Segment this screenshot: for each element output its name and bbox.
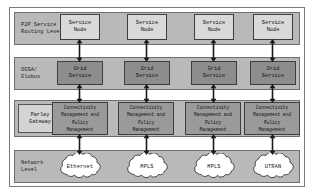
double-arrow-icon	[143, 84, 150, 103]
network-cloud-mpls-2[interactable]: MPLS	[188, 153, 240, 180]
connector-arrow-p2p-ogsa-4	[269, 39, 276, 62]
connector-arrow-ogsa-parlay-1	[76, 84, 83, 103]
connector-arrow-p2p-ogsa-3	[210, 39, 217, 62]
service-node-3[interactable]: Service Node	[194, 14, 234, 40]
grid-service-2[interactable]: Grid Service	[124, 61, 170, 85]
cloud-label-mpls-1: MPLS	[121, 153, 173, 180]
layer-label-p2p: P2P Service Routing Level	[21, 22, 63, 36]
grid-service-1[interactable]: Grid Service	[57, 61, 103, 85]
double-arrow-icon	[143, 39, 150, 62]
network-cloud-mpls-1[interactable]: MPLS	[121, 153, 173, 180]
connector-arrow-parlay-network-4	[269, 134, 276, 155]
grid-service-4[interactable]: Grid Service	[250, 61, 296, 85]
connectivity-management-4[interactable]: Connectivity Management and Policy Manag…	[244, 102, 300, 135]
connector-arrow-p2p-ogsa-1	[76, 39, 83, 62]
cloud-label-ethernet: Ethernet	[54, 153, 106, 180]
service-node-4[interactable]: Service Node	[253, 14, 293, 40]
double-arrow-icon	[269, 134, 276, 155]
double-arrow-icon	[76, 134, 83, 155]
grid-service-3[interactable]: Grid Service	[191, 61, 237, 85]
double-arrow-icon	[143, 134, 150, 155]
layer-label-network: Network Level	[21, 160, 44, 174]
cloud-label-mpls-2: MPLS	[188, 153, 240, 180]
double-arrow-icon	[76, 84, 83, 103]
double-arrow-icon	[210, 134, 217, 155]
double-arrow-icon	[269, 39, 276, 62]
double-arrow-icon	[210, 84, 217, 103]
network-cloud-utran[interactable]: UTRAN	[247, 153, 299, 180]
double-arrow-icon	[210, 39, 217, 62]
connector-arrow-ogsa-parlay-3	[210, 84, 217, 103]
connector-arrow-parlay-network-1	[76, 134, 83, 155]
connector-arrow-ogsa-parlay-2	[143, 84, 150, 103]
double-arrow-icon	[269, 84, 276, 103]
service-node-1[interactable]: Service Node	[60, 14, 100, 40]
architecture-diagram: P2P Service Routing Level Service Node S…	[0, 0, 323, 195]
cloud-label-utran: UTRAN	[247, 153, 299, 180]
connector-arrow-p2p-ogsa-2	[143, 39, 150, 62]
connector-arrow-parlay-network-2	[143, 134, 150, 155]
double-arrow-icon	[76, 39, 83, 62]
connectivity-management-2[interactable]: Connectivity Management and Policy Manag…	[118, 102, 174, 135]
connector-arrow-parlay-network-3	[210, 134, 217, 155]
connector-arrow-ogsa-parlay-4	[269, 84, 276, 103]
connectivity-management-1[interactable]: Connectivity Management and Policy Manag…	[52, 102, 108, 135]
layer-label-ogsa: OGSA/ Globus	[21, 67, 40, 81]
service-node-2[interactable]: Service Node	[127, 14, 167, 40]
network-cloud-ethernet[interactable]: Ethernet	[54, 153, 106, 180]
connectivity-management-3[interactable]: Connectivity Management and Policy Manag…	[185, 102, 241, 135]
